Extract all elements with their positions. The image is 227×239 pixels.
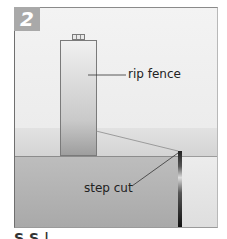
cut-perspective-line: [96, 131, 178, 151]
step-cut-leader: [132, 153, 178, 186]
step-number-badge: 2: [14, 7, 40, 31]
caption-partial: S S |: [14, 230, 49, 239]
step-cut-label: step cut: [84, 181, 133, 195]
leader-lines: [0, 0, 227, 239]
rip-fence-label: rip fence: [128, 67, 181, 81]
